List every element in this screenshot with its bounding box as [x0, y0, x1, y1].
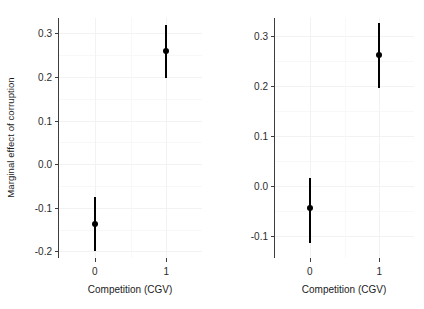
plot-area-left: 0.30.20.10.0-0.1-0.201: [58, 18, 202, 258]
y-axis-tick-label: 0.2: [38, 71, 52, 82]
plot-area-right: 0.30.20.10.0-0.101: [274, 18, 414, 258]
gridline-minor-vertical: [131, 18, 132, 258]
x-axis-tick: [166, 258, 167, 262]
gridline-minor-vertical: [345, 18, 346, 258]
y-axis-tick-label: 0.2: [254, 80, 268, 91]
x-axis-tick: [95, 258, 96, 262]
y-axis-title-container: Marginal effect of corruption: [0, 0, 20, 275]
y-axis-tick-label: 0.3: [38, 28, 52, 39]
estimate-point: [376, 52, 382, 58]
x-axis-tick-label: 1: [163, 266, 169, 277]
x-axis-title-right: Competition (CGV): [274, 284, 414, 295]
estimate-point: [307, 205, 313, 211]
pointrange-marker: [373, 18, 385, 258]
y-axis-tick: [55, 77, 59, 78]
y-axis-tick: [55, 208, 59, 209]
y-axis-tick: [55, 121, 59, 122]
pointrange-marker: [89, 18, 101, 258]
estimate-point: [163, 48, 169, 54]
y-axis-tick-label: -0.1: [35, 202, 52, 213]
y-axis-tick: [271, 186, 275, 187]
y-axis-tick-label: 0.0: [38, 159, 52, 170]
y-axis-tick-label: 0.1: [38, 115, 52, 126]
x-axis-title-left: Competition (CGV): [58, 284, 202, 295]
y-axis-tick: [271, 236, 275, 237]
x-axis-tick: [310, 258, 311, 262]
figure-root: Marginal effect of corruption 0.30.20.10…: [0, 0, 424, 309]
y-axis-tick-label: -0.2: [35, 246, 52, 257]
y-axis-tick: [271, 86, 275, 87]
y-axis-tick-label: 0.1: [254, 130, 268, 141]
y-axis-tick-label: 0.0: [254, 180, 268, 191]
x-axis-tick-label: 1: [376, 266, 382, 277]
y-axis-tick: [271, 36, 275, 37]
y-axis-tick: [55, 251, 59, 252]
y-axis-title: Marginal effect of corruption: [5, 77, 16, 197]
y-axis-tick-label: -0.1: [251, 230, 268, 241]
pointrange-marker: [304, 18, 316, 258]
facet-panel-right: 0.30.20.10.0-0.101 Competition (CGV): [274, 18, 414, 258]
y-axis-tick: [55, 164, 59, 165]
x-axis-tick: [379, 258, 380, 262]
y-axis-tick: [271, 136, 275, 137]
x-axis-tick-label: 0: [92, 266, 98, 277]
x-axis-tick-label: 0: [307, 266, 313, 277]
facet-panel-left: 0.30.20.10.0-0.1-0.201 Competition (CGV): [58, 18, 202, 258]
y-axis-tick: [55, 33, 59, 34]
pointrange-marker: [160, 18, 172, 258]
y-axis-tick-label: 0.3: [254, 30, 268, 41]
estimate-point: [92, 221, 98, 227]
clipped-title-strip: [110, 0, 290, 6]
